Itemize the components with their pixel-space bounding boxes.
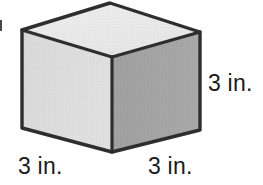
cube-figure: 3 in. 3 in. 3 in. <box>0 0 263 185</box>
dimension-label-base-right: 3 in. <box>148 155 192 178</box>
dimension-label-base-left: 3 in. <box>18 155 62 178</box>
dimension-label-height: 3 in. <box>208 72 252 95</box>
scan-artifact-mark <box>0 20 2 31</box>
